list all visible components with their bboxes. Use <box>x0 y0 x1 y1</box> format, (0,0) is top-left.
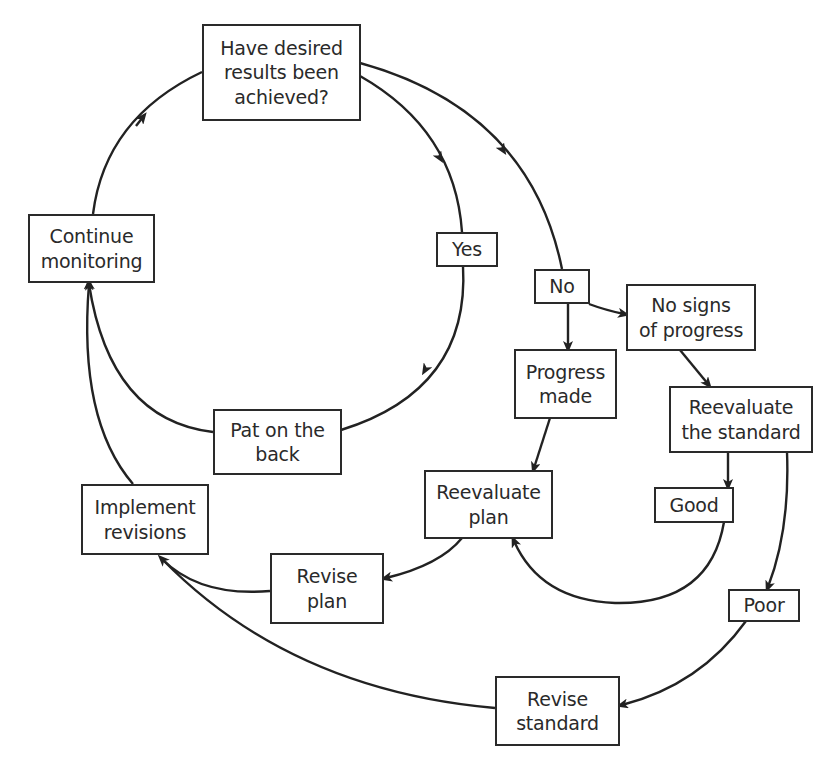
node-reevaluate-plan: Reevaluate plan <box>424 470 553 539</box>
node-revise-plan: Revise plan <box>270 553 384 624</box>
edge-progress-to-reeval-plan <box>534 418 550 468</box>
node-yes: Yes <box>436 232 498 267</box>
edge-pat-to-continue <box>89 284 213 432</box>
node-poor: Poor <box>728 589 800 622</box>
node-question: Have desired results been achieved? <box>202 24 361 121</box>
node-no: No <box>534 269 590 304</box>
node-good: Good <box>654 487 734 523</box>
flowchart-canvas: Have desired results been achieved? Cont… <box>0 0 837 769</box>
node-implement-revisions: Implement revisions <box>81 484 209 555</box>
edge-reeval-standard-to-poor <box>768 452 787 587</box>
edge-yes-to-pat <box>341 266 463 430</box>
edge-reeval-plan-to-revise-plan <box>386 538 462 578</box>
node-reevaluate-standard: Reevaluate the standard <box>669 386 813 453</box>
edge-poor-to-revise-standard <box>622 621 746 705</box>
node-no-signs-of-progress: No signs of progress <box>626 284 756 351</box>
connector-layer <box>0 0 837 769</box>
node-pat-on-the-back: Pat on the back <box>213 409 342 475</box>
arrow-icon <box>425 358 432 370</box>
node-continue-monitoring: Continue monitoring <box>28 214 155 283</box>
edge-no-to-no-signs <box>589 304 624 314</box>
node-revise-standard: Revise standard <box>495 676 620 746</box>
node-progress-made: Progress made <box>514 349 617 419</box>
edge-no-signs-to-reeval-standard <box>680 350 708 384</box>
edge-continue-to-question <box>93 72 202 214</box>
